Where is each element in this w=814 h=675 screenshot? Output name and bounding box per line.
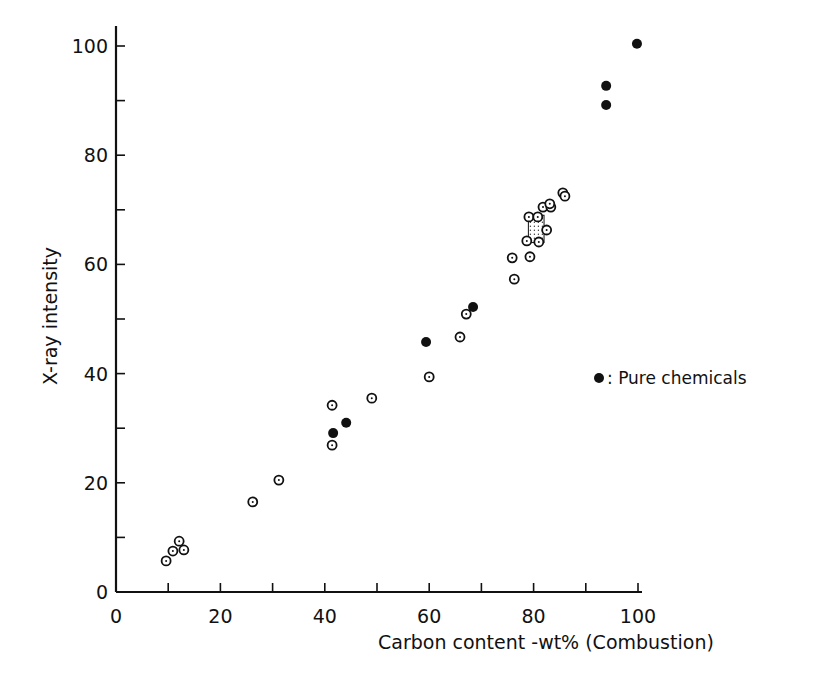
filled-point-marker-icon — [632, 39, 642, 49]
open-point-marker-icon — [248, 497, 257, 506]
filled-point-marker-icon — [421, 337, 431, 347]
y-tick-label: 60 — [84, 253, 108, 275]
x-tick-label: 60 — [417, 605, 441, 627]
y-axis-title: X-ray intensity — [39, 247, 61, 385]
y-tick-label: 40 — [84, 363, 108, 385]
x-tick-label: 20 — [208, 605, 232, 627]
open-point-marker-icon — [508, 253, 517, 262]
open-point-marker-icon — [533, 212, 542, 221]
legend-filled-circle-icon — [594, 373, 604, 383]
open-point-marker-icon — [162, 556, 171, 565]
open-point-marker-icon — [534, 238, 543, 247]
filled-point-marker-icon — [601, 81, 611, 91]
axes — [116, 26, 642, 592]
filled-point-marker-icon — [341, 418, 351, 428]
scatter-chart: 020406080100 020406080100 Carbon content… — [0, 0, 814, 675]
filled-point-marker-icon — [468, 302, 478, 312]
open-point-marker-icon — [367, 394, 376, 403]
open-point-marker-icon — [168, 547, 177, 556]
open-point-marker-icon — [510, 275, 519, 284]
open-point-marker-icon — [179, 545, 188, 554]
open-point-marker-icon — [525, 252, 534, 261]
x-axis-ticks: 020406080100 — [110, 583, 656, 627]
filled-point-marker-icon — [601, 100, 611, 110]
y-tick-label: 0 — [96, 581, 108, 603]
y-tick-label: 100 — [72, 35, 108, 57]
x-tick-label: 0 — [110, 605, 122, 627]
x-tick-label: 40 — [313, 605, 337, 627]
x-axis-title: Carbon content -wt% (Combustion) — [378, 631, 714, 653]
y-tick-label: 20 — [84, 472, 108, 494]
open-point-marker-icon — [274, 476, 283, 485]
open-point-marker-icon — [522, 236, 531, 245]
open-point-marker-icon — [560, 192, 569, 201]
y-tick-label: 80 — [84, 144, 108, 166]
open-point-marker-icon — [328, 441, 337, 450]
data-points — [162, 39, 642, 566]
filled-point-marker-icon — [328, 428, 338, 438]
open-point-marker-icon — [175, 537, 184, 546]
x-tick-label: 100 — [620, 605, 656, 627]
open-point-marker-icon — [425, 372, 434, 381]
open-point-marker-icon — [462, 310, 471, 319]
x-tick-label: 80 — [522, 605, 546, 627]
open-point-marker-icon — [328, 401, 337, 410]
open-point-marker-icon — [542, 226, 551, 235]
legend-label: : Pure chemicals — [607, 368, 747, 388]
open-point-marker-icon — [524, 212, 533, 221]
open-point-marker-icon — [545, 199, 554, 208]
open-point-marker-icon — [455, 333, 464, 342]
legend: : Pure chemicals — [594, 368, 747, 388]
